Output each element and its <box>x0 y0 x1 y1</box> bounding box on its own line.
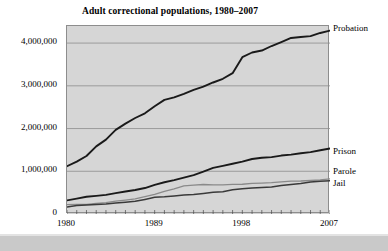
plot-area <box>66 25 329 213</box>
series-label-probation: Probation <box>333 24 368 33</box>
series-line-prison <box>67 149 330 201</box>
y-tick-label: 0 <box>53 208 58 217</box>
y-tick-label: 4,000,000 <box>21 37 57 46</box>
x-tick-label: 2007 <box>312 219 346 228</box>
y-tick-label: 3,000,000 <box>21 80 57 89</box>
y-tick-label: 2,000,000 <box>21 123 57 132</box>
series-label-prison: Prison <box>333 147 356 156</box>
page-bottom-strip <box>0 236 388 251</box>
y-tick-label: 1,000,000 <box>21 165 57 174</box>
chart-title: Adult correctional populations, 1980–200… <box>0 6 340 16</box>
chart-figure: Adult correctional populations, 1980–200… <box>0 0 388 251</box>
plot-svg <box>67 26 330 214</box>
x-tick-label: 1989 <box>137 219 171 228</box>
series-label-parole: Parole <box>333 167 356 176</box>
x-tick-label: 1998 <box>224 219 258 228</box>
series-line-probation <box>67 31 330 167</box>
series-line-parole <box>67 179 330 205</box>
series-label-jail: Jail <box>333 179 346 188</box>
x-tick-label: 1980 <box>49 219 83 228</box>
